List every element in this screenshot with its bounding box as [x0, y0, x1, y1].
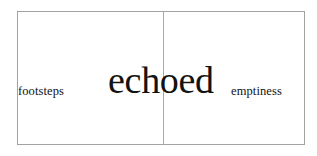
word-echoed: echoed [108, 61, 214, 99]
composition-canvas: footsteps echoed emptiness [0, 0, 317, 156]
word-row: footsteps echoed emptiness [17, 11, 305, 145]
word-footsteps: footsteps [18, 85, 64, 98]
word-emptiness: emptiness [231, 85, 282, 98]
